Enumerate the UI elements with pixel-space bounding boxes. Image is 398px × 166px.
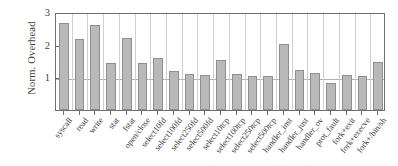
gridline-vertical (245, 14, 246, 110)
x-tick-mark (204, 111, 205, 115)
x-tick-mark (94, 111, 95, 115)
gridline-vertical (119, 14, 120, 110)
bar (59, 23, 69, 110)
x-tick-mark (157, 111, 158, 115)
gridline-vertical (213, 14, 214, 110)
bar (263, 76, 273, 110)
bar (310, 73, 320, 110)
gridline-vertical (339, 14, 340, 110)
gridline-vertical (323, 14, 324, 110)
bar (248, 76, 258, 110)
x-tick-mark (141, 111, 142, 115)
x-tick-mark (110, 111, 111, 115)
x-tick-mark (361, 111, 362, 115)
gridline-vertical (229, 14, 230, 110)
x-tick-label: stat (107, 116, 121, 131)
x-tick-label: syscall (53, 116, 74, 140)
x-tick-mark (299, 111, 300, 115)
gridline-vertical (150, 14, 151, 110)
x-tick-mark (189, 111, 190, 115)
gridline-vertical (276, 14, 277, 110)
x-tick-mark (346, 111, 347, 115)
y-tick-mark-2 (55, 46, 59, 47)
x-tick-mark (126, 111, 127, 115)
gridline-vertical (166, 14, 167, 110)
gridline-vertical (307, 14, 308, 110)
plot-area (55, 13, 385, 111)
bar (358, 76, 368, 110)
bar (153, 58, 163, 110)
bar (342, 75, 352, 110)
bar-chart: Norm. Overhead 3 2 1 syscallreadwritesta… (0, 0, 398, 166)
gridline-vertical (292, 14, 293, 110)
x-tick-mark (314, 111, 315, 115)
bar (373, 62, 383, 110)
x-tick-mark (173, 111, 174, 115)
x-tick-label: read (74, 116, 90, 133)
x-tick-mark (377, 111, 378, 115)
bar (216, 60, 226, 110)
bar (232, 74, 242, 110)
bar (122, 38, 132, 110)
bar (90, 25, 100, 110)
gridline-vertical (370, 14, 371, 110)
gridline-vertical (260, 14, 261, 110)
x-tick-label: write (88, 116, 106, 135)
bar (279, 44, 289, 110)
bar (169, 71, 179, 110)
x-tick-mark (283, 111, 284, 115)
bar (295, 70, 305, 110)
x-tick-mark (220, 111, 221, 115)
y-tick-label-3: 3 (26, 8, 50, 18)
x-tick-mark (236, 111, 237, 115)
bar (75, 39, 85, 110)
gridline-vertical (72, 14, 73, 110)
bar (138, 63, 148, 110)
x-tick-mark (251, 111, 252, 115)
y-tick-mark-1 (55, 78, 59, 79)
y-tick-label-2: 2 (26, 41, 50, 51)
y-tick-label-1: 1 (26, 73, 50, 83)
bar (106, 63, 116, 110)
gridline-vertical (197, 14, 198, 110)
gridline-vertical (355, 14, 356, 110)
bar (326, 83, 336, 110)
y-tick-mark-3 (55, 13, 59, 14)
bar (200, 75, 210, 110)
x-tick-mark (63, 111, 64, 115)
y-axis-title: Norm. Overhead (24, 6, 40, 110)
x-tick-mark (330, 111, 331, 115)
gridline-vertical (135, 14, 136, 110)
bar (185, 74, 195, 110)
gridline-vertical (182, 14, 183, 110)
gridline-vertical (103, 14, 104, 110)
x-tick-mark (79, 111, 80, 115)
gridline-vertical (87, 14, 88, 110)
x-tick-mark (267, 111, 268, 115)
